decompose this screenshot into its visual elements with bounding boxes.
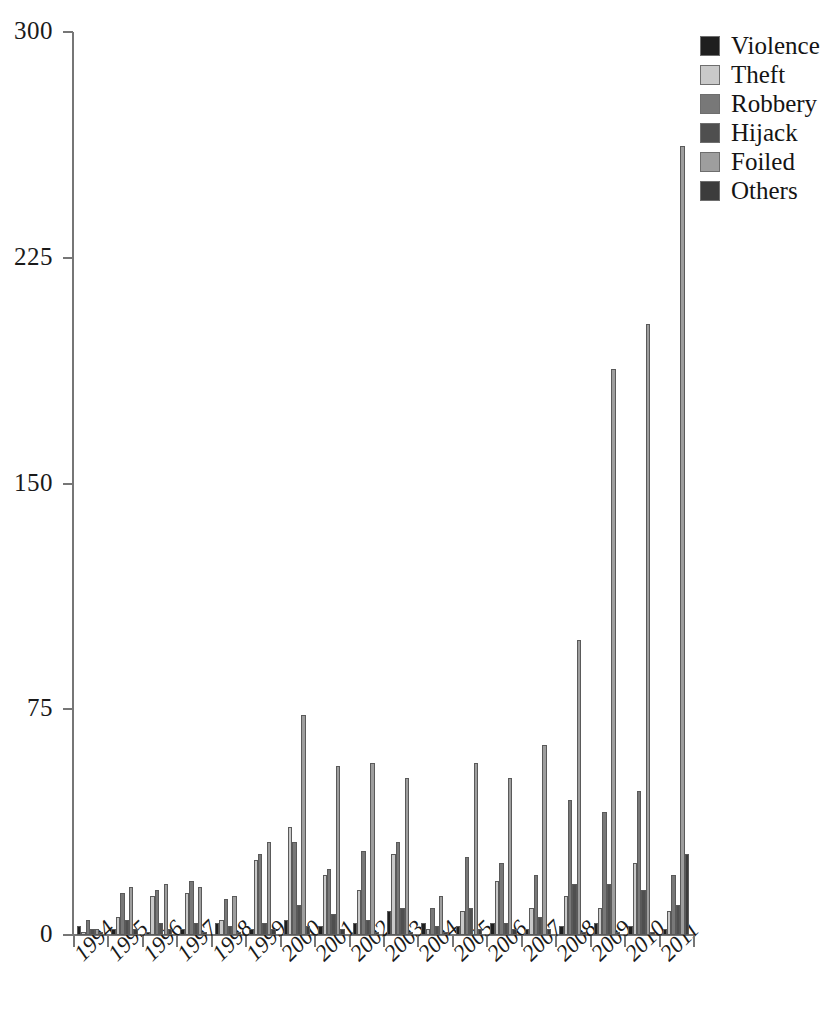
legend-item-hijack[interactable]: Hijack [700,118,838,147]
bar-foiled-2002 [370,763,374,935]
bar-group [111,32,137,935]
bar-group [353,32,379,935]
bar-foiled-2007 [542,745,546,935]
legend-item-theft[interactable]: Theft [700,60,838,89]
bar-group [525,32,551,935]
bar-others-2003 [409,932,413,935]
bar-foiled-1995 [129,887,133,935]
bar-group [421,32,447,935]
legend-label: Foiled [731,147,795,176]
bar-group [456,32,482,935]
y-tick-mark [63,483,73,485]
legend-item-robbery[interactable]: Robbery [700,89,838,118]
bar-foiled-1999 [267,842,271,935]
legend-swatch-icon [700,94,720,114]
y-tick-label: 0 [40,918,53,950]
bar-others-1996 [168,929,172,935]
bar-foiled-2010 [646,324,650,935]
bar-others-1998 [237,932,241,935]
legend-item-others[interactable]: Others [700,176,838,205]
bar-group [180,32,206,935]
bar-group [387,32,413,935]
bar-others-2010 [650,932,654,935]
y-tick-mark [63,257,73,259]
y-tick-label: 300 [14,15,53,47]
bar-foiled-2008 [577,640,581,935]
bar-group [77,32,103,935]
chart-legend: ViolenceTheftRobberyHijackFoiledOthers [700,31,838,205]
y-tick-label: 75 [27,692,53,724]
bar-foiled-2004 [439,896,443,935]
bar-others-2001 [340,929,344,935]
x-tick-mark [693,936,695,947]
bar-others-1999 [271,929,275,935]
bar-foiled-2011 [680,146,684,935]
legend-swatch-icon [700,65,720,85]
bar-foiled-2009 [611,369,615,935]
bar-chart: 075150225300 199419951996199719981999200… [0,0,838,1022]
legend-label: Theft [731,60,785,89]
bar-others-2011 [685,854,689,935]
bar-others-1997 [202,932,206,935]
bar-others-1994 [99,932,103,935]
bar-foiled-1997 [198,887,202,935]
bar-foiled-2003 [405,778,409,935]
legend-swatch-icon [700,36,720,56]
legend-label: Others [731,176,798,205]
legend-item-foiled[interactable]: Foiled [700,147,838,176]
bar-group [559,32,585,935]
legend-label: Violence [731,31,820,60]
bar-foiled-1998 [232,896,236,935]
bar-group [249,32,275,935]
legend-label: Hijack [731,118,798,147]
legend-swatch-icon [700,181,720,201]
y-tick-mark [63,708,73,710]
bar-group [215,32,241,935]
bar-group [284,32,310,935]
y-tick-label: 150 [14,467,53,499]
bar-group [628,32,654,935]
bar-foiled-2005 [474,763,478,935]
bar-others-2008 [581,932,585,935]
bar-group [146,32,172,935]
legend-item-violence[interactable]: Violence [700,31,838,60]
bar-group [594,32,620,935]
legend-label: Robbery [731,89,817,118]
y-tick-label: 225 [14,241,53,273]
bar-others-2009 [616,932,620,935]
bar-others-2002 [375,932,379,935]
bar-others-2006 [512,929,516,935]
bar-group [318,32,344,935]
bar-foiled-2000 [301,715,305,935]
bar-others-2007 [547,929,551,935]
bar-foiled-2006 [508,778,512,935]
bar-foiled-2001 [336,766,340,935]
bar-group [663,32,689,935]
bar-group [490,32,516,935]
bar-foiled-1996 [164,884,168,935]
plot-area [73,32,693,935]
bar-others-2004 [443,932,447,935]
bar-others-2000 [306,926,310,935]
legend-swatch-icon [700,152,720,172]
legend-swatch-icon [700,123,720,143]
y-tick-mark [63,31,73,33]
bar-others-2005 [478,929,482,935]
bar-others-1995 [133,929,137,935]
